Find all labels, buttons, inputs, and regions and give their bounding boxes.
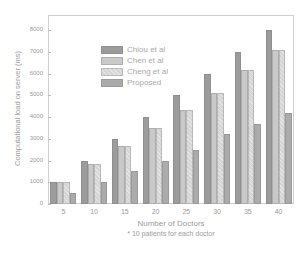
y-tick-mark bbox=[48, 139, 51, 140]
x-tick-label: 25 bbox=[176, 208, 196, 215]
y-tick-label: 2000 bbox=[13, 157, 43, 163]
bar-proposed-25 bbox=[193, 150, 200, 204]
bar-proposed-15 bbox=[131, 171, 138, 204]
y-tick-label: 4000 bbox=[13, 113, 43, 119]
bar-proposed-5 bbox=[70, 193, 77, 204]
legend-swatch bbox=[101, 46, 123, 54]
bar-proposed-20 bbox=[162, 161, 169, 204]
x-axis-title: Number of Doctors bbox=[48, 219, 294, 228]
legend-swatch bbox=[101, 79, 123, 87]
legend-item: Chen et al bbox=[101, 55, 168, 66]
bar-proposed-40 bbox=[285, 113, 292, 204]
x-tick-label: 5 bbox=[53, 208, 73, 215]
y-tick-label: 7000 bbox=[13, 48, 43, 54]
y-tick-mark bbox=[48, 204, 51, 205]
legend-item: Cheng et al bbox=[101, 66, 168, 77]
legend-item: Chiou et al bbox=[101, 44, 168, 55]
legend-label: Chen et al bbox=[127, 56, 163, 65]
legend-label: Cheng et al bbox=[127, 67, 168, 76]
bar-proposed-30 bbox=[224, 134, 231, 204]
legend-label: Chiou et al bbox=[127, 45, 165, 54]
y-tick-label: 6000 bbox=[13, 70, 43, 76]
x-tick-label: 35 bbox=[238, 208, 258, 215]
y-tick-label: 1000 bbox=[13, 178, 43, 184]
y-tick-mark bbox=[48, 74, 51, 75]
legend-swatch bbox=[101, 57, 123, 65]
bar-chart: Computational load on server (ms) 010002… bbox=[0, 0, 307, 256]
x-tick-label: 30 bbox=[207, 208, 227, 215]
bar-proposed-10 bbox=[101, 182, 108, 204]
y-tick-label: 5000 bbox=[13, 91, 43, 97]
y-tick-mark bbox=[48, 30, 51, 31]
y-tick-label: 3000 bbox=[13, 135, 43, 141]
x-tick-label: 40 bbox=[269, 208, 289, 215]
legend: Chiou et alChen et alCheng et alProposed bbox=[101, 44, 168, 88]
x-tick-label: 10 bbox=[84, 208, 104, 215]
bar-proposed-35 bbox=[254, 124, 261, 204]
y-tick-mark bbox=[48, 117, 51, 118]
legend-swatch bbox=[101, 68, 123, 76]
x-tick-label: 15 bbox=[115, 208, 135, 215]
x-tick-label: 20 bbox=[146, 208, 166, 215]
y-tick-label: 8000 bbox=[13, 26, 43, 32]
y-tick-mark bbox=[48, 161, 51, 162]
x-axis-note: * 10 patients for each doctor bbox=[48, 230, 294, 237]
legend-item: Proposed bbox=[101, 77, 168, 88]
y-tick-mark bbox=[48, 52, 51, 53]
y-tick-label: 0 bbox=[13, 200, 43, 206]
legend-label: Proposed bbox=[127, 78, 161, 87]
y-tick-mark bbox=[48, 95, 51, 96]
